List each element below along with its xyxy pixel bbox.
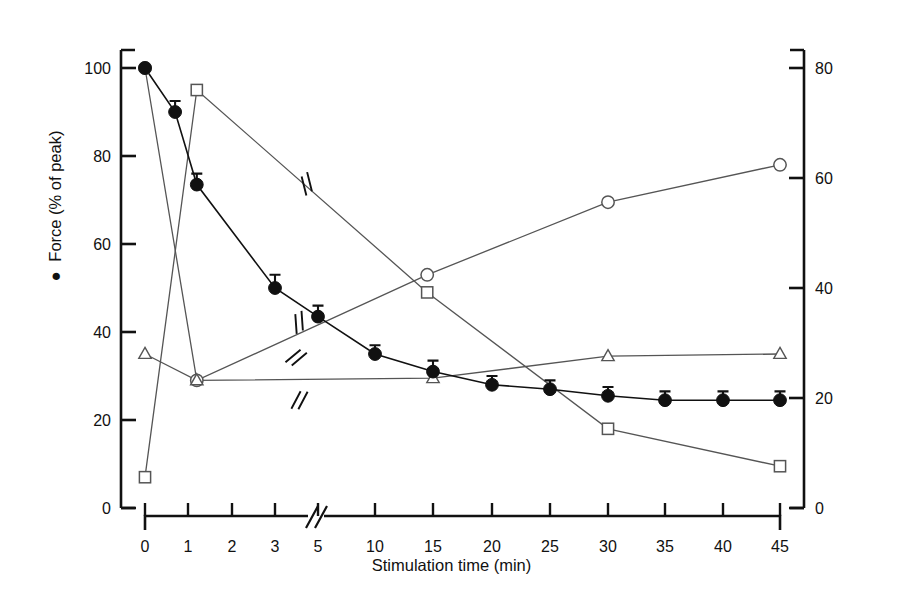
- data-point-pcr: [602, 196, 614, 208]
- chart-canvas: 0204060801000204060800123510152025303540…: [0, 0, 903, 596]
- data-point-force: [190, 178, 203, 191]
- data-point-lactate: [191, 84, 202, 95]
- x-tick-label: 40: [714, 538, 732, 555]
- y-right-axis-spine: [790, 50, 804, 508]
- x-tick-label: 15: [424, 538, 442, 555]
- data-point-lactate: [774, 461, 785, 472]
- data-point-force: [544, 383, 557, 396]
- x-tick-label: 2: [228, 538, 237, 555]
- y-left-tick-label: 0: [102, 500, 111, 517]
- data-point-force: [602, 389, 615, 402]
- x-axis-label: Stimulation time (min): [372, 556, 532, 574]
- data-point-lactate: [422, 287, 433, 298]
- data-point-force: [659, 394, 672, 407]
- x-axis-spine: [145, 516, 780, 530]
- y-right-tick-label: 20: [815, 390, 833, 407]
- data-point-pcr: [774, 159, 786, 171]
- data-point-force: [139, 62, 152, 75]
- data-point-force: [774, 394, 787, 407]
- series-line-pcr: [145, 68, 780, 380]
- x-tick-label: 1: [184, 538, 193, 555]
- x-tick-label: 5: [314, 538, 323, 555]
- data-point-force: [486, 378, 499, 391]
- data-point-atp: [139, 347, 151, 358]
- line-break-marker: [291, 391, 307, 410]
- filled-circle-legend-icon: ●: [46, 271, 65, 281]
- y-right-tick-label: 60: [815, 170, 833, 187]
- series-line-force: [145, 68, 780, 400]
- y-left-tick-label: 60: [93, 236, 111, 253]
- data-point-force: [312, 310, 325, 323]
- series-line-atp: [145, 354, 780, 380]
- x-tick-label: 45: [771, 538, 789, 555]
- data-point-lactate: [139, 472, 150, 483]
- data-point-pcr: [421, 269, 433, 281]
- data-point-force: [427, 365, 440, 378]
- series-line-lactate: [145, 90, 780, 477]
- y-left-tick-label: 20: [93, 412, 111, 429]
- x-axis-break-marker: [306, 506, 327, 528]
- x-tick-label: 30: [599, 538, 617, 555]
- y-left-axis-label: Force (% of peak): [46, 131, 64, 262]
- figure-panel: 0204060801000204060800123510152025303540…: [0, 0, 903, 596]
- data-point-atp: [602, 350, 614, 361]
- y-left-tick-label: 80: [93, 148, 111, 165]
- data-point-force: [269, 282, 282, 295]
- y-left-tick-label: 40: [93, 324, 111, 341]
- y-left-tick-label: 100: [84, 60, 111, 77]
- line-break-marker: [295, 172, 318, 195]
- y-right-tick-label: 0: [815, 500, 824, 517]
- x-tick-label: 0: [141, 538, 150, 555]
- data-point-force: [369, 348, 382, 361]
- x-tick-label: 25: [541, 538, 559, 555]
- data-point-force: [169, 106, 182, 119]
- x-tick-label: 10: [366, 538, 384, 555]
- x-tick-label: 20: [483, 538, 501, 555]
- y-left-axis-spine: [121, 50, 135, 508]
- x-tick-label: 35: [656, 538, 674, 555]
- y-right-tick-label: 40: [815, 280, 833, 297]
- x-axis-label-wrap: Stimulation time (min): [0, 556, 903, 575]
- data-point-force: [717, 394, 730, 407]
- y-right-tick-label: 80: [815, 60, 833, 77]
- data-point-lactate: [602, 423, 613, 434]
- line-break-marker: [285, 346, 306, 369]
- x-tick-label: 3: [271, 538, 280, 555]
- y-left-axis-label-group: ● Force (% of peak): [46, 106, 66, 306]
- data-point-atp: [774, 347, 786, 358]
